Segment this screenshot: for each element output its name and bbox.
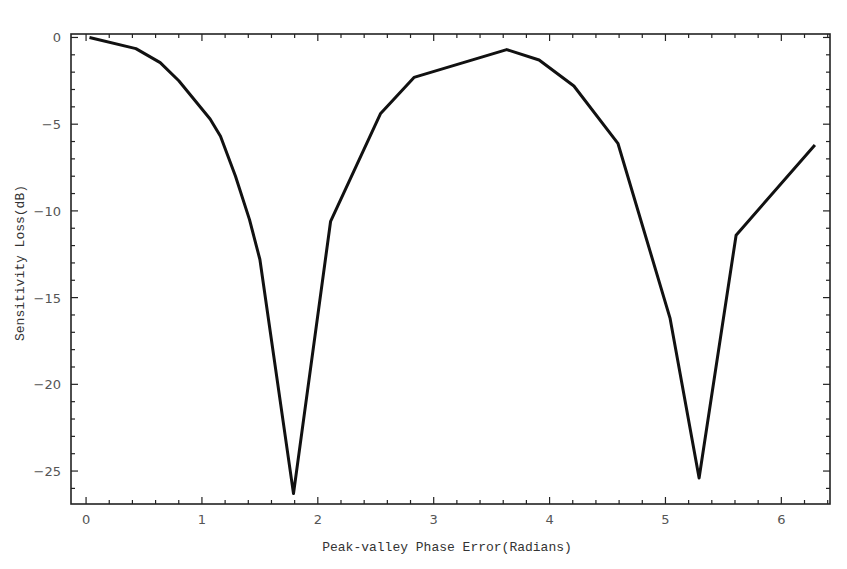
y-axis-title: Sensitivity Loss(dB) [13,185,28,341]
x-tick-label: 1 [198,512,206,527]
x-tick-label: 6 [777,512,785,527]
x-tick-label: 0 [82,512,90,527]
y-tick-label: −20 [34,377,61,392]
axis-ticks [71,34,830,504]
x-tick-label: 2 [314,512,322,527]
axis-tick-labels: 01234560−5−10−15−20−25 [34,30,786,527]
x-axis-title: Peak-valley Phase Error(Radians) [322,540,572,555]
y-tick-label: −5 [42,117,61,132]
y-tick-label: −10 [34,204,61,219]
plot-border [71,34,830,504]
x-tick-label: 4 [545,512,553,527]
x-tick-label: 3 [430,512,438,527]
data-line [90,38,815,494]
y-tick-label: −25 [34,464,61,479]
line-chart: 01234560−5−10−15−20−25 Peak-valley Phase… [0,0,847,569]
y-tick-label: 0 [53,30,61,45]
plot-frame [71,34,830,504]
y-tick-label: −15 [34,291,61,306]
x-tick-label: 5 [661,512,669,527]
